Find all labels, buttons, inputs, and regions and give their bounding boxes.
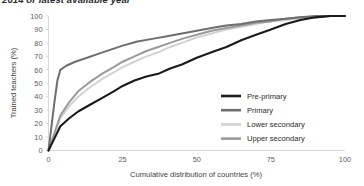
x-tick-label: 100 xyxy=(339,155,351,164)
x-tick-label: 0 xyxy=(46,155,50,164)
line-chart: 0102030405060708090100 0255075100 Traine… xyxy=(0,0,364,186)
legend-label: Lower secondary xyxy=(247,120,305,129)
x-axis-tick-group: 0255075100 xyxy=(46,155,351,164)
y-tick-label: 80 xyxy=(34,39,42,48)
series-line-primary xyxy=(49,16,346,151)
chart-figure: 2014 or latest available year 0102030405… xyxy=(0,0,364,186)
y-tick-label: 70 xyxy=(34,52,42,61)
x-axis-title: Cumulative distribution of countries (%) xyxy=(130,170,263,179)
legend-label: Primary xyxy=(247,106,273,115)
y-tick-label: 20 xyxy=(34,119,42,128)
y-tick-label: 60 xyxy=(34,66,42,75)
y-tick-label: 90 xyxy=(34,25,42,34)
y-axis-title: Trained teachers (%) xyxy=(9,47,18,118)
series-group xyxy=(49,16,346,151)
y-tick-label: 40 xyxy=(34,92,42,101)
x-tick-label: 25 xyxy=(119,155,127,164)
series-line-lower-secondary xyxy=(49,16,346,151)
series-line-pre-primary xyxy=(49,16,346,151)
y-tick-label: 100 xyxy=(30,12,42,21)
series-line-upper-secondary xyxy=(49,16,346,151)
x-tick-label: 50 xyxy=(193,155,201,164)
chart-legend: Pre-primaryPrimaryLower secondaryUpper s… xyxy=(221,92,305,144)
legend-label: Pre-primary xyxy=(247,92,287,101)
y-tick-label: 30 xyxy=(34,106,42,115)
legend-label: Upper secondary xyxy=(247,134,305,143)
y-axis-tick-group: 0102030405060708090100 xyxy=(30,12,48,156)
y-tick-label: 10 xyxy=(34,133,42,142)
y-tick-label: 0 xyxy=(38,146,42,155)
x-tick-label: 75 xyxy=(267,155,275,164)
y-tick-label: 50 xyxy=(34,79,42,88)
